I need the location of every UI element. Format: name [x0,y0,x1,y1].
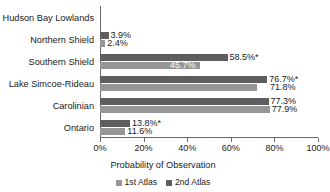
bar-1st-atlas-carolinian[interactable] [100,106,270,113]
chart-legend: 1st Atlas 2nd Atlas [0,178,326,187]
tick-mark-60 [231,138,232,142]
bar-value-1st-atlas-lake-simcoe-rideau: 71.8% [270,83,296,92]
bar-group-lake-simcoe-rideau: 76.7%* 71.8% [100,76,318,94]
category-axis-labels: Hudson Bay Lowlands Northern Shield Sout… [0,6,97,137]
bar-group-hudson-bay-lowlands [100,10,318,28]
tick-mark-40 [187,138,188,142]
tick-mark-100 [318,138,319,142]
bar-1st-atlas-northern-shield[interactable] [100,40,105,47]
tick-mark-0 [100,138,101,142]
bar-group-carolinian: 77.3% 77.9% [100,98,318,116]
legend-swatch-icon-2nd-atlas [166,180,172,186]
category-label-southern-shield: Southern Shield [29,57,94,67]
bar-group-northern-shield: 3.9% 2.4% [100,32,318,50]
bar-2nd-atlas-southern-shield[interactable] [100,54,228,61]
bar-2nd-atlas-lake-simcoe-rideau[interactable] [100,76,267,83]
category-label-ontario: Ontario [64,123,94,133]
bar-value-2nd-atlas-southern-shield: 58.5%* [230,53,259,62]
legend-swatch-icon-1st-atlas [116,180,122,186]
tick-mark-20 [144,138,145,142]
tick-label-100: 100% [306,143,329,154]
tick-label-80: 80% [265,143,283,154]
bar-value-1st-atlas-carolinian: 77.9% [272,105,298,114]
bar-2nd-atlas-carolinian[interactable] [100,98,269,105]
bar-group-southern-shield: 58.5%* 45.7% [100,54,318,72]
legend-label-2nd-atlas: 2nd Atlas [175,178,210,187]
legend-item-2nd-atlas[interactable]: 2nd Atlas [166,178,210,187]
bar-1st-atlas-lake-simcoe-rideau[interactable] [100,84,257,91]
bar-2nd-atlas-ontario[interactable] [100,120,130,127]
category-label-hudson-bay-lowlands: Hudson Bay Lowlands [3,13,94,23]
tick-mark-80 [274,138,275,142]
category-label-lake-simcoe-rideau: Lake Simcoe-Rideau [9,79,94,89]
bar-group-ontario: 13.8%* 11.6% [100,120,318,138]
bar-1st-atlas-ontario[interactable] [100,128,125,135]
tick-label-40: 40% [178,143,196,154]
bar-value-1st-atlas-ontario: 11.6% [127,127,152,136]
plot-area: 3.9% 2.4% 58.5%* 45.7% 76.7%* 71.8% 77.3… [100,6,318,137]
legend-label-1st-atlas: 1st Atlas [125,178,157,187]
category-label-northern-shield: Northern Shield [30,35,94,45]
tick-label-0: 0% [93,143,106,154]
category-label-carolinian: Carolinian [53,101,94,111]
bar-value-1st-atlas-southern-shield: 45.7% [170,61,196,70]
x-axis-title: Probability of Observation [0,160,326,171]
bar-value-1st-atlas-northern-shield: 2.4% [107,39,128,48]
tick-label-20: 20% [135,143,153,154]
tick-label-60: 60% [222,143,240,154]
legend-item-1st-atlas[interactable]: 1st Atlas [116,178,157,187]
